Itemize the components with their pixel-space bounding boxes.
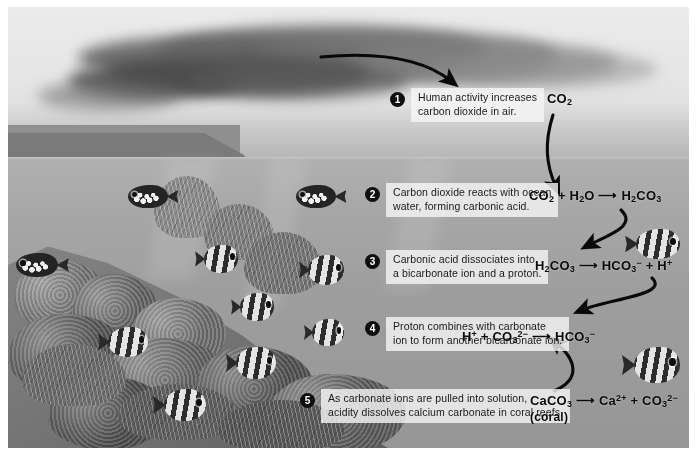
equation-3-proton-carbonate: H+ + CO32− ⟶ HCO3− [462,329,595,345]
step-2-badge: 2 [365,187,380,202]
step-3-text: Carbonic acid dissociates into a bicarbo… [386,250,548,284]
fish-angelfish-e [108,327,148,357]
fish-angelfish-a [204,245,238,273]
fish-clown-triggerfish-left [16,253,58,277]
equation-1-carbonic-acid-formation: CO2 + H2O ⟶ H2CO3 [529,188,661,204]
coral-note: (coral) [530,410,678,424]
step-1-badge: 1 [390,92,405,107]
step-1-text: Human activity increases carbon dioxide … [411,88,544,122]
step-1-callout: 1 Human activity increases carbon dioxid… [390,88,544,122]
fish-angelfish-b [308,255,344,285]
step-3-callout: 3 Carbonic acid dissociates into a bicar… [365,250,548,284]
equation-4-calcium-carbonate-dissolution: CaCO3 ⟶ Ca2+ + CO32− (coral) [530,393,678,424]
label-co2: CO2 [547,91,572,107]
fish-discus-right-lower [634,347,680,383]
fish-angelfish-c [240,293,274,321]
ocean-acidification-figure: 1 Human activity increases carbon dioxid… [0,0,697,455]
equation-2-dissociation: H2CO3 ⟶ HCO3− + H+ [535,258,672,274]
fish-clown-triggerfish-mid [296,185,336,208]
fish-clown-triggerfish-upper [128,185,168,208]
fish-angelfish-f [236,347,276,379]
fish-angelfish-right-upper [636,229,680,259]
fish-angelfish-d [312,319,344,346]
fish-angelfish-g [164,389,206,421]
step-3-badge: 3 [365,254,380,269]
diagram-scene: 1 Human activity increases carbon dioxid… [8,7,689,448]
step-4-badge: 4 [365,321,380,336]
step-5-badge: 5 [300,393,315,408]
